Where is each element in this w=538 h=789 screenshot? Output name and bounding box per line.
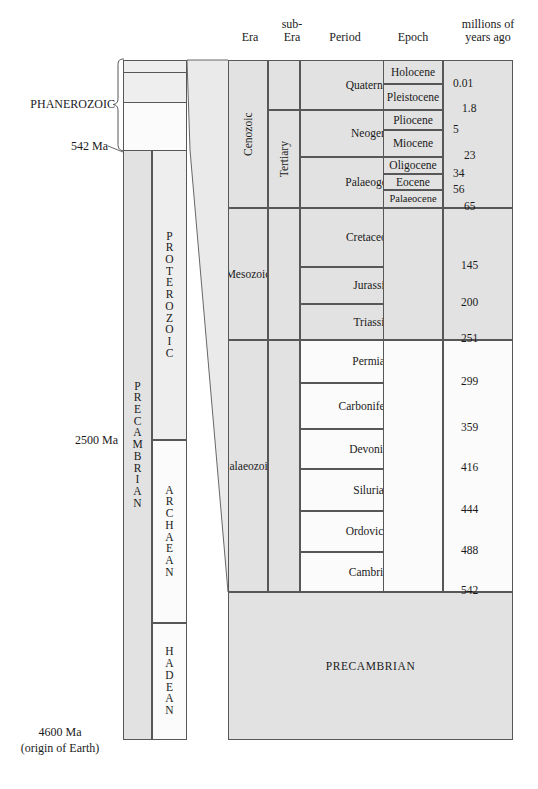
- age-value-488: 488: [461, 545, 478, 557]
- precambrian-eon-column: P R E C A M B R I A N: [123, 150, 152, 740]
- hadean-era-column: H A D E A N: [152, 623, 187, 740]
- era-cell-cenozoic-label: Cenozoic: [242, 112, 254, 155]
- proterozoic-letter: O: [165, 301, 173, 313]
- sub-era-cell-tertiary: Tertiary: [268, 110, 300, 208]
- age-value-299: 299: [461, 376, 478, 388]
- sub-era-cell-palaeozoic-blank: [268, 340, 300, 592]
- sub-era-cell-quaternary-blank: [268, 60, 300, 110]
- age-value-416: 416: [461, 462, 478, 474]
- epoch-cell-miocene-label: Miocene: [393, 137, 433, 149]
- epoch-cell-holocene-label: Holocene: [391, 66, 435, 78]
- epoch-cell-palaeocene-label: Palaeocene: [389, 193, 436, 204]
- sub-era-cell-mesozoic-blank: [268, 208, 300, 340]
- epoch-cell-oligocene-label: Oligocene: [389, 159, 436, 171]
- epoch-cell-miocene: Miocene: [383, 130, 443, 157]
- proterozoic-era-column: P R O T E R O Z O I C: [152, 150, 187, 440]
- epoch-cell-holocene: Holocene: [383, 60, 443, 84]
- precambrian-letter: E: [134, 404, 141, 416]
- header-epoch: Epoch: [382, 31, 444, 44]
- header-age-line1: millions of: [444, 18, 532, 31]
- age-value-444: 444: [461, 504, 478, 516]
- age-label-4600ma: 4600 Ma: [0, 726, 120, 740]
- precambrian-block: PRECAMBRIAN: [228, 592, 513, 740]
- epoch-cell-pleistocene-label: Pleistocene: [387, 91, 439, 103]
- age-value-0.01: 0.01: [453, 78, 473, 90]
- header-age: millions of years ago: [444, 18, 532, 45]
- age-value-5: 5: [453, 124, 459, 136]
- epoch-cell-palaeocene: Palaeocene: [383, 190, 443, 208]
- phanerozoic-band-mesozoic: [123, 72, 187, 103]
- phanerozoic-expansion-wedge: [187, 60, 228, 592]
- header-era: Era: [228, 31, 272, 44]
- age-value-145: 145: [461, 260, 478, 272]
- proterozoic-letter: I: [168, 336, 172, 348]
- epoch-cell-oligocene: Oligocene: [383, 157, 443, 174]
- archaean-era-column: A R C H A E A N: [152, 440, 187, 623]
- age-value-1.8: 1.8: [462, 103, 476, 115]
- geological-time-scale-figure: Era sub- Era Period Epoch millions of ye…: [0, 0, 538, 789]
- era-cell-cenozoic: Cenozoic: [228, 60, 268, 208]
- age-value-65: 65: [464, 201, 476, 213]
- origin-of-earth-note: (origin of Earth): [0, 742, 120, 756]
- epoch-cell-palaeozoic-blank: [383, 340, 443, 592]
- proterozoic-letter: C: [166, 348, 174, 360]
- age-label-542ma: 542 Ma: [0, 140, 108, 154]
- hadean-letter: N: [165, 705, 173, 717]
- phanerozoic-eon-label: PHANEROZOIC: [0, 98, 115, 112]
- epoch-cell-eocene: Eocene: [383, 174, 443, 190]
- precambrian-letter: N: [133, 498, 141, 510]
- header-age-line2: years ago: [444, 31, 532, 44]
- precambrian-block-label: PRECAMBRIAN: [326, 660, 416, 672]
- age-value-23: 23: [464, 150, 476, 162]
- precambrian-letter: A: [133, 486, 141, 498]
- epoch-cell-pliocene: Pliocene: [383, 110, 443, 130]
- era-cell-palaeozoic-label: Palaeozoic: [228, 460, 268, 472]
- tick-542ma-leader: [108, 146, 123, 152]
- header-period: Period: [300, 31, 390, 44]
- proterozoic-letter: O: [165, 254, 173, 266]
- age-value-200: 200: [461, 297, 478, 309]
- era-cell-mesozoic: Mesozoic: [228, 208, 268, 340]
- precambrian-letter: B: [134, 451, 142, 463]
- archaean-letter: N: [165, 567, 173, 579]
- sub-era-cell-tertiary-label: Tertiary: [278, 141, 290, 177]
- age-value-359: 359: [461, 422, 478, 434]
- epoch-cell-eocene-label: Eocene: [396, 176, 430, 188]
- epoch-cell-pleistocene: Pleistocene: [383, 84, 443, 110]
- archaean-letter: H: [165, 520, 173, 532]
- era-cell-mesozoic-label: Mesozoic: [228, 268, 268, 280]
- age-label-2500ma: 2500 Ma: [0, 434, 118, 448]
- age-gutter-mesozoic: [443, 208, 513, 340]
- hadean-letter: D: [165, 670, 173, 682]
- epoch-cell-mesozoic-blank: [383, 208, 443, 340]
- age-value-34: 34: [453, 168, 465, 180]
- header-sub-era-line1: sub-: [268, 18, 316, 31]
- phanerozoic-band-palaeozoic: [123, 102, 187, 151]
- age-value-56: 56: [453, 184, 465, 196]
- age-value-542: 542: [461, 585, 478, 597]
- archaean-letter: A: [165, 555, 173, 567]
- age-value-251: 251: [461, 333, 478, 345]
- epoch-cell-pliocene-label: Pliocene: [393, 114, 433, 126]
- era-cell-palaeozoic: Palaeozoic: [228, 340, 268, 592]
